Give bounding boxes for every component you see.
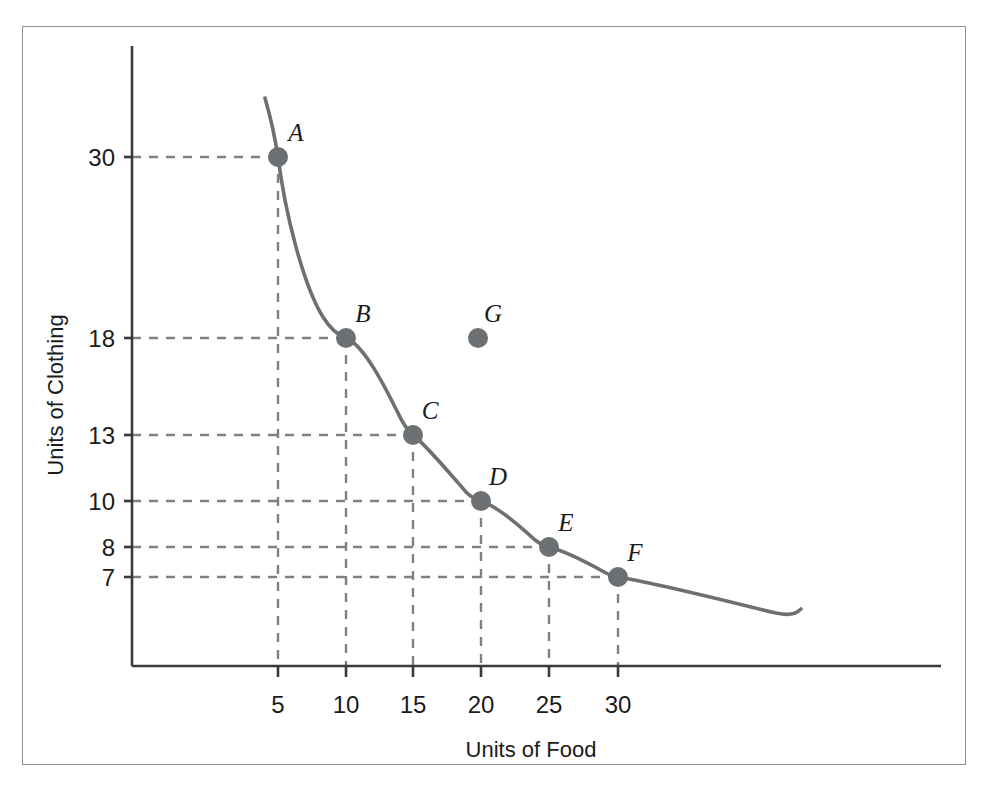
x-tick-label-5: 30 [605, 691, 632, 718]
x-tick-label-4: 25 [536, 691, 563, 718]
point-label-f: F [626, 539, 643, 566]
point-label-b: B [355, 300, 370, 327]
y-tick-label-0: 30 [88, 144, 115, 171]
figure-root: 30 18 13 10 8 7 5 10 15 20 25 30 Units o… [0, 0, 988, 792]
data-point-a[interactable] [268, 147, 288, 167]
point-label-c: C [422, 397, 439, 424]
point-label-d: D [488, 463, 507, 490]
x-tick-label-1: 10 [333, 691, 360, 718]
data-point-c[interactable] [403, 425, 423, 445]
data-points [268, 147, 628, 587]
point-label-a: A [286, 119, 304, 146]
data-point-g[interactable] [468, 328, 488, 348]
x-axis-title: Units of Food [466, 737, 597, 762]
y-tick-label-5: 7 [102, 564, 115, 591]
y-tick-label-4: 8 [102, 534, 115, 561]
data-point-d[interactable] [471, 491, 491, 511]
x-tick-label-3: 20 [468, 691, 495, 718]
data-point-e[interactable] [539, 537, 559, 557]
data-point-f[interactable] [608, 567, 628, 587]
figure-frame: 30 18 13 10 8 7 5 10 15 20 25 30 Units o… [22, 26, 966, 765]
ppf-chart: 30 18 13 10 8 7 5 10 15 20 25 30 Units o… [23, 27, 965, 764]
y-tick-label-2: 13 [88, 422, 115, 449]
point-label-e: E [557, 509, 573, 536]
y-tick-label-3: 10 [88, 488, 115, 515]
guide-lines [132, 157, 618, 666]
x-tick-labels: 5 10 15 20 25 30 [271, 691, 631, 718]
x-tick-label-0: 5 [271, 691, 284, 718]
data-point-b[interactable] [336, 328, 356, 348]
point-label-g: G [484, 300, 502, 327]
x-tick-label-2: 15 [400, 691, 427, 718]
axes [132, 46, 941, 666]
y-axis-title: Units of Clothing [43, 314, 68, 475]
y-tick-labels: 30 18 13 10 8 7 [88, 144, 115, 591]
y-tick-label-1: 18 [88, 325, 115, 352]
x-axis-ticks [278, 666, 618, 677]
